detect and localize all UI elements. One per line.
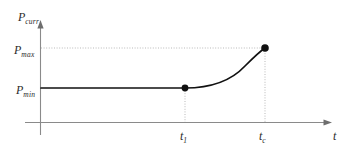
y-tick-label-p-max: Pmax bbox=[14, 41, 34, 57]
x-axis-arrowhead bbox=[324, 119, 333, 125]
marker-dot-t1 bbox=[182, 85, 189, 92]
x-tick-label-tc: tc bbox=[259, 127, 266, 143]
chart-plot-area bbox=[0, 0, 349, 150]
x-tick-t1-subscript: 1 bbox=[183, 136, 187, 145]
y-tick-label-p-min: Pmin bbox=[16, 81, 35, 97]
x-tick-tc-subscript: c bbox=[262, 136, 266, 145]
x-axis-label-base: t bbox=[333, 129, 336, 143]
marker-dot-tc bbox=[261, 44, 269, 52]
data-curve-p-curr bbox=[41, 48, 265, 88]
x-axis-label: t bbox=[333, 127, 336, 143]
chart-figure: Pcurr Pmax Pmin t1 tc t bbox=[0, 0, 349, 150]
y-tick-p-max-subscript: max bbox=[21, 50, 34, 59]
y-axis-label: Pcurr bbox=[18, 8, 39, 24]
x-tick-label-t1: t1 bbox=[180, 127, 187, 143]
y-axis-label-subscript: curr bbox=[25, 17, 39, 26]
y-tick-p-min-subscript: min bbox=[23, 90, 35, 99]
